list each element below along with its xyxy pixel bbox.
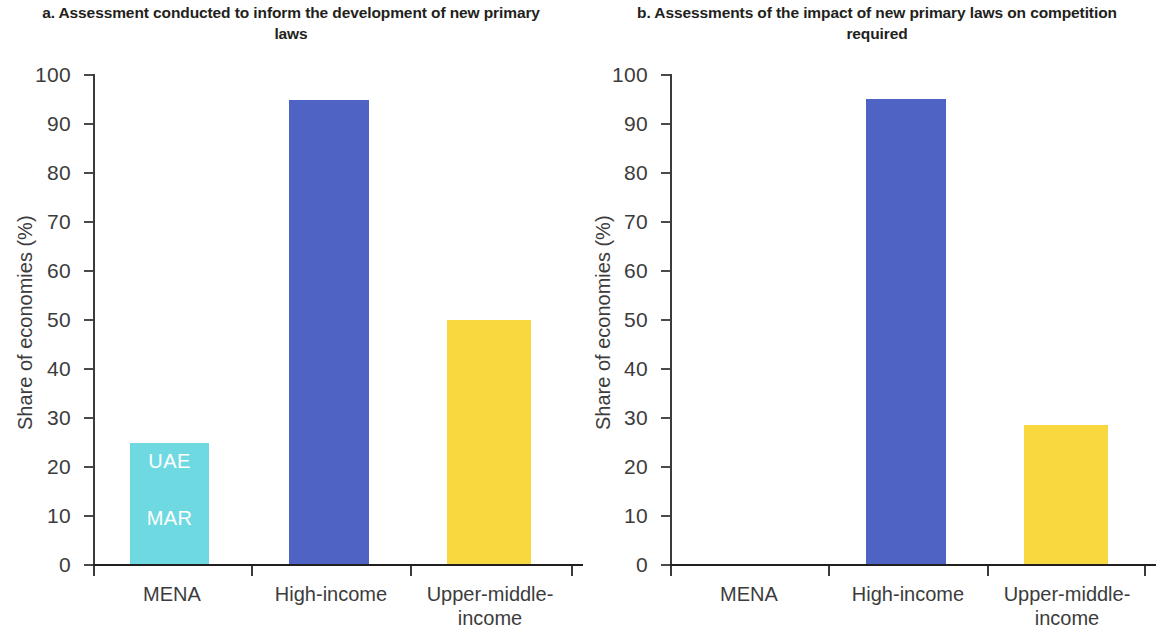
panel-a-ytick-40: 40 xyxy=(84,368,93,370)
panel-a-ytick-label-60: 60 xyxy=(47,259,71,283)
panel-a-bar-upper-middle-income[interactable] xyxy=(447,320,531,564)
panel-a-ytick-90: 90 xyxy=(84,123,93,125)
panel-a-ytick-label-100: 100 xyxy=(35,63,71,87)
panel-b-ytick-label-70: 70 xyxy=(624,210,648,234)
panel-b-ytick-40: 40 xyxy=(661,368,670,370)
panel-b-ytick-30: 30 xyxy=(661,417,670,419)
panel-a-ytick-100: 100 xyxy=(84,74,93,76)
panel-b-ytick-50: 50 xyxy=(661,319,670,321)
panel-a-ytick-10: 10 xyxy=(84,515,93,517)
panel-a-ytick-label-80: 80 xyxy=(47,161,71,185)
panel-a-title: a. Assessment conducted to inform the de… xyxy=(40,2,542,45)
panel-a-ytick-80: 80 xyxy=(84,172,93,174)
panel-b-ytick-label-10: 10 xyxy=(624,504,648,528)
panel-a-xaxis-end-cap xyxy=(571,566,573,576)
panel-a-ytick-label-70: 70 xyxy=(47,210,71,234)
panel-a-ytick-label-40: 40 xyxy=(47,357,71,381)
panel-b-ytick-100: 100 xyxy=(661,74,670,76)
panel-b-ytick-80: 80 xyxy=(661,172,670,174)
panel-a-ytick-label-50: 50 xyxy=(47,308,71,332)
panel-b-category-label-upper-middle-income: Upper-middle- income xyxy=(982,582,1152,630)
panel-a-plot-area: 100 90 80 70 60 50 40 30 xyxy=(93,74,577,566)
panel-b-xtick-2 xyxy=(987,566,989,576)
panel-a-ytick-label-10: 10 xyxy=(47,504,71,528)
panel-a-ytick-60: 60 xyxy=(84,270,93,272)
panel-b-ytick-90: 90 xyxy=(661,123,670,125)
panel-a-bar-annotation-uae: UAE xyxy=(148,450,190,473)
panel-b-ytick-60: 60 xyxy=(661,270,670,272)
panel-a-bar-annotation-mar: MAR xyxy=(147,507,193,530)
panel-b-bar-high-income[interactable] xyxy=(866,99,946,564)
panel-a-bar-high-income[interactable] xyxy=(289,100,369,564)
panel-a-bar-mena-annotations: UAE MAR xyxy=(130,443,209,564)
panel-a-y-axis-label: Share of economies (%) xyxy=(14,215,37,430)
panel-b-xtick-1 xyxy=(828,566,830,576)
panel-b-ytick-label-90: 90 xyxy=(624,112,648,136)
panel-a-xtick-1 xyxy=(251,566,253,576)
panel-a-ytick-70: 70 xyxy=(84,221,93,223)
panel-b-x-axis-line xyxy=(670,564,1156,566)
panel-b-ytick-label-40: 40 xyxy=(624,357,648,381)
panel-b-ytick-70: 70 xyxy=(661,221,670,223)
panel-b-ytick-label-50: 50 xyxy=(624,308,648,332)
panel-a-ytick-30: 30 xyxy=(84,417,93,419)
panel-a-xaxis-start-cap xyxy=(93,566,95,576)
panel-b-category-label-high-income: High-income xyxy=(823,582,993,606)
panel-b-ytick-label-20: 20 xyxy=(624,455,648,479)
panel-b-ytick-label-100: 100 xyxy=(612,63,648,87)
panel-b-xaxis-start-cap xyxy=(670,566,672,576)
panel-b-ytick-20: 20 xyxy=(661,466,670,468)
panel-a-ytick-50: 50 xyxy=(84,319,93,321)
panel-a-bar-mena[interactable]: UAE MAR xyxy=(130,443,209,564)
panel-b-ytick-label-60: 60 xyxy=(624,259,648,283)
panel-a-ytick-20: 20 xyxy=(84,466,93,468)
panel-a-x-axis-line xyxy=(93,564,583,566)
panel-a-ytick-0: 0 xyxy=(84,564,93,566)
panel-b-title: b. Assessments of the impact of new prim… xyxy=(624,2,1130,45)
panel-a: a. Assessment conducted to inform the de… xyxy=(0,0,590,635)
panel-b-ytick-label-30: 30 xyxy=(624,406,648,430)
panel-a-ytick-label-0: 0 xyxy=(59,553,71,577)
panel-a-category-label-upper-middle-income: Upper-middle- income xyxy=(405,582,575,630)
panel-a-ytick-label-20: 20 xyxy=(47,455,71,479)
panel-a-category-label-mena: MENA xyxy=(87,582,257,606)
panel-a-ytick-label-90: 90 xyxy=(47,112,71,136)
panel-a-y-axis-line xyxy=(93,74,95,566)
panel-b-plot-area: 100 90 80 70 60 50 40 30 xyxy=(670,74,1150,566)
panel-b-y-axis-line xyxy=(670,74,672,566)
figure-two-panel-bar-charts: a. Assessment conducted to inform the de… xyxy=(0,0,1156,635)
panel-b-y-axis-label: Share of economies (%) xyxy=(592,215,615,430)
panel-b-ytick-0: 0 xyxy=(661,564,670,566)
panel-b: b. Assessments of the impact of new prim… xyxy=(578,0,1156,635)
panel-b-xaxis-end-cap xyxy=(1144,566,1146,576)
panel-b-ytick-label-0: 0 xyxy=(636,553,648,577)
panel-b-category-label-mena: MENA xyxy=(664,582,834,606)
panel-a-ytick-label-30: 30 xyxy=(47,406,71,430)
panel-a-xtick-2 xyxy=(410,566,412,576)
panel-b-bar-upper-middle-income[interactable] xyxy=(1024,425,1108,564)
panel-a-category-label-high-income: High-income xyxy=(246,582,416,606)
panel-b-ytick-label-80: 80 xyxy=(624,161,648,185)
panel-b-ytick-10: 10 xyxy=(661,515,670,517)
